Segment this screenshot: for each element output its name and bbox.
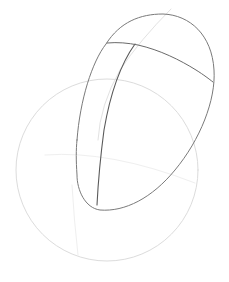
mouse-sketch-drawing: [0, 0, 229, 282]
sketch-canvas: [0, 0, 229, 282]
guide-line-vertical: [72, 185, 78, 255]
mouse-top-cross-line: [107, 43, 213, 82]
guide-circle: [16, 79, 198, 261]
mouse-button-divider: [97, 44, 135, 205]
guide-line-horizontal: [45, 154, 195, 183]
guide-line-diagonal: [98, 9, 171, 140]
mouse-outline: [76, 14, 214, 210]
